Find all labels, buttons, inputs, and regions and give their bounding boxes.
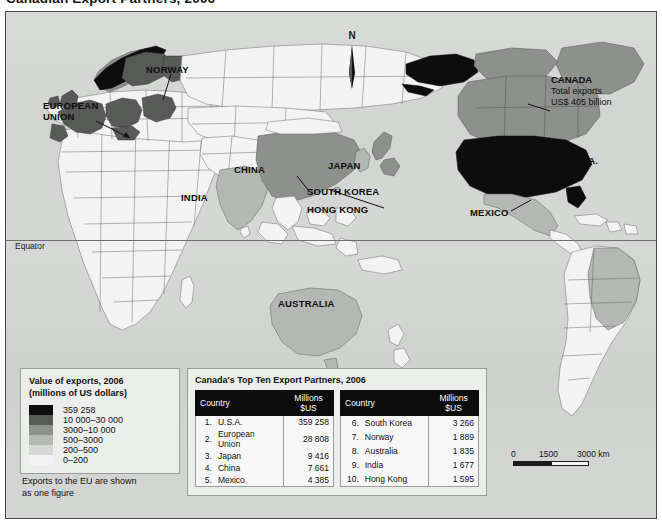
legend-label-column: 359 258 10 000–30 000 3000–10 000 500–30…	[63, 405, 123, 465]
map-label-usa: U.S.A.	[569, 155, 598, 166]
canada-annotation-line1: Total exports	[551, 86, 612, 98]
row-rank: 2.	[196, 428, 214, 450]
legend-label-0: 359 258	[63, 405, 123, 415]
legend-label-5: 0–200	[63, 455, 123, 465]
row-country: Norway	[361, 430, 429, 444]
map-canvas: .c0{fill:#f2f3f2;stroke:#6b6d6b;stroke-w…	[6, 12, 656, 518]
legend-title: Value of exports, 2006 (millions of US d…	[29, 376, 171, 399]
row-country: Hong Kong	[361, 472, 429, 487]
map-label-european-union: EUROPEAN UNION	[43, 100, 98, 122]
table-columns: Country Millions $US 1. U.S.A. 359 258 2…	[195, 390, 479, 487]
row-country: U.S.A.	[214, 416, 284, 429]
legend-label-4: 200–500	[63, 445, 123, 455]
equator-line	[6, 240, 656, 241]
callout-south-korea	[291, 172, 311, 194]
row-country: South Korea	[361, 416, 429, 431]
map-label-mexico: MEXICO	[470, 207, 509, 218]
row-value: 4 385	[284, 474, 334, 487]
north-arrow-label: N	[339, 30, 365, 41]
row-value: 3 266	[429, 416, 479, 431]
header-value-right: Millions $US	[429, 391, 479, 416]
scale-segment-1	[513, 461, 551, 466]
canada-annotation: CANADA Total exports US$ 405 billion	[551, 74, 612, 109]
table-title: Canada's Top Ten Export Partners, 2006	[195, 375, 479, 385]
table-row: 9. India 1 677	[341, 458, 479, 472]
map-legend: Value of exports, 2006 (millions of US d…	[20, 368, 180, 474]
legend-title-line1: Value of exports, 2006	[29, 376, 171, 388]
header-country-right: Country	[341, 391, 429, 416]
callout-european-union	[96, 117, 136, 141]
scale-tick-1: 1500	[539, 449, 558, 459]
row-rank: 6.	[341, 416, 361, 431]
row-rank: 9.	[341, 458, 361, 472]
table-row: 5. Mexico 4 385	[196, 474, 334, 487]
map-frame: .c0{fill:#f2f3f2;stroke:#6b6d6b;stroke-w…	[5, 11, 657, 519]
scale-segment-2	[551, 461, 589, 466]
header-country-left: Country	[196, 391, 284, 416]
row-value: 28 808	[284, 428, 334, 450]
canada-annotation-line2: US$ 405 billion	[551, 97, 612, 109]
table-row: 10. Hong Kong 1 595	[341, 472, 479, 487]
row-rank: 7.	[341, 430, 361, 444]
row-value: 9 416	[284, 450, 334, 462]
row-value: 1 677	[429, 458, 479, 472]
north-arrow: N	[339, 30, 365, 90]
export-partners-panel: Canada's Top Ten Export Partners, 2006 C…	[187, 368, 487, 496]
legend-note: Exports to the EU are shown as one figur…	[22, 475, 202, 499]
callout-mexico	[511, 198, 533, 214]
legend-label-3: 500–3000	[63, 435, 123, 445]
legend-title-line2: (millions of US dollars)	[29, 388, 171, 400]
map-label-australia: AUSTRALIA	[278, 298, 335, 309]
legend-swatch-1	[29, 415, 53, 425]
table-row: 7. Norway 1 889	[341, 430, 479, 444]
table-row: 6. South Korea 3 266	[341, 416, 479, 431]
legend-swatch-3	[29, 435, 53, 445]
legend-swatch-5	[29, 455, 53, 465]
scale-tick-2: 3000 km	[577, 449, 610, 459]
row-rank: 5.	[196, 474, 214, 487]
legend-label-1: 10 000–30 000	[63, 415, 123, 425]
legend-label-2: 3000–10 000	[63, 425, 123, 435]
legend-note-line2: as one figure	[22, 487, 202, 499]
callout-canada	[526, 102, 552, 114]
row-country: Australia	[361, 444, 429, 458]
legend-swatch-column	[29, 405, 53, 465]
row-value: 359 258	[284, 416, 334, 429]
callout-norway	[161, 74, 175, 102]
table-row: 2. European Union 28 808	[196, 428, 334, 450]
row-rank: 4.	[196, 462, 214, 474]
row-country: Japan	[214, 450, 284, 462]
page-title: Canadian Export Partners, 2006	[6, 0, 215, 6]
map-label-china: CHINA	[234, 164, 265, 175]
canada-annotation-heading: CANADA	[551, 74, 612, 86]
table-header-row: Country Millions $US	[341, 391, 479, 416]
export-table-right: Country Millions $US 6. South Korea 3 26…	[340, 390, 479, 487]
scale-bar: 0 1500 3000 km	[511, 449, 626, 466]
row-country: India	[361, 458, 429, 472]
row-rank: 3.	[196, 450, 214, 462]
export-table-left: Country Millions $US 1. U.S.A. 359 258 2…	[195, 390, 334, 487]
callout-usa	[526, 154, 570, 168]
scale-bar-graphic	[511, 461, 626, 466]
map-label-india: INDIA	[181, 192, 208, 203]
equator-label: Equator	[15, 241, 45, 251]
legend-note-line1: Exports to the EU are shown	[22, 475, 202, 487]
table-header-row: Country Millions $US	[196, 391, 334, 416]
row-value: 1 835	[429, 444, 479, 458]
header-value-left: Millions $US	[284, 391, 334, 416]
scale-ticks: 0 1500 3000 km	[511, 449, 626, 460]
legend-swatch-0	[29, 405, 53, 415]
row-country: China	[214, 462, 284, 474]
row-rank: 10.	[341, 472, 361, 487]
row-rank: 1.	[196, 416, 214, 429]
table-row: 4. China 7 661	[196, 462, 334, 474]
row-country: European Union	[214, 428, 284, 450]
row-value: 7 661	[284, 462, 334, 474]
row-value: 1 889	[429, 430, 479, 444]
legend-swatch-2	[29, 425, 53, 435]
table-row: 8. Australia 1 835	[341, 444, 479, 458]
north-arrow-icon	[339, 43, 365, 91]
legend-swatches: 359 258 10 000–30 000 3000–10 000 500–30…	[29, 405, 171, 465]
legend-swatch-4	[29, 445, 53, 455]
table-row: 1. U.S.A. 359 258	[196, 416, 334, 429]
